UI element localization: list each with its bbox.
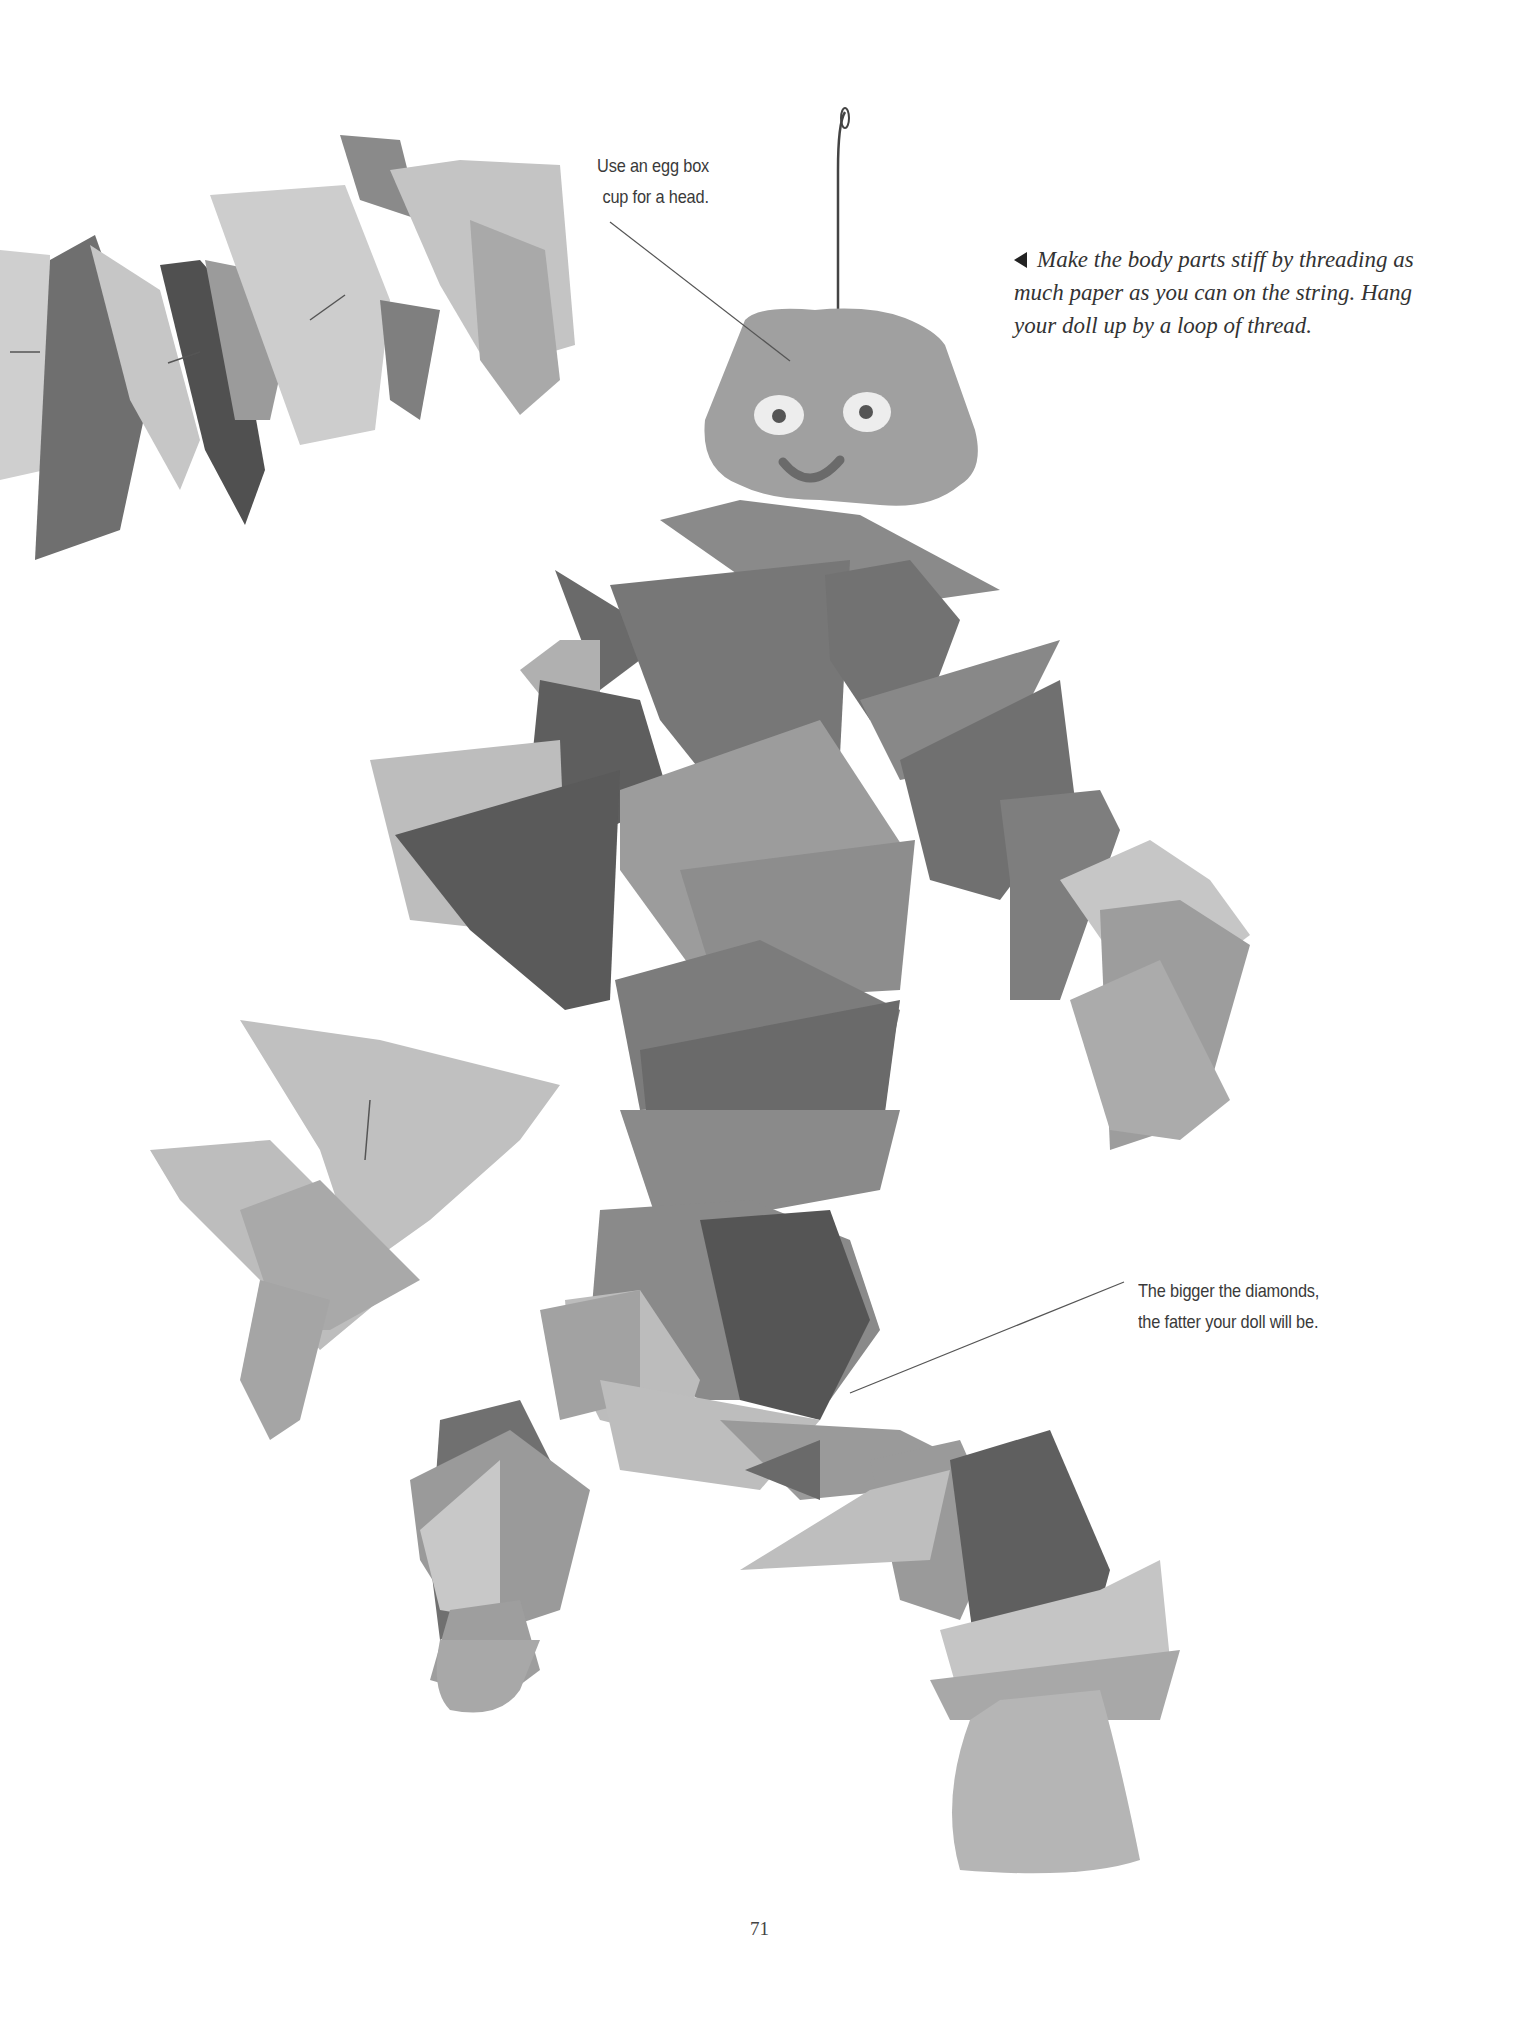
leader-line-head [610,222,790,361]
caption-text: Make the body parts stiff by threading a… [1037,247,1414,272]
caption-egg-box-head: Use an egg box cup for a head. [597,150,709,212]
caption-line-3: your doll up by a loop of thread. [1014,309,1474,342]
arrow-left-icon [1014,252,1027,268]
page-number: 71 [750,1918,769,1940]
leader-line-diamonds [850,1282,1124,1393]
hanging-thread [838,112,845,322]
caption-instruction: Make the body parts stiff by threading a… [1014,243,1474,342]
caption-line-1: Make the body parts stiff by threading a… [1014,243,1474,276]
left-arm [150,1020,560,1440]
right-arm [1000,790,1250,1150]
caption-line: Use an egg box [597,150,709,181]
caption-line: cup for a head. [597,181,709,212]
caption-bigger-diamonds: The bigger the diamonds, the fatter your… [1138,1275,1319,1337]
paper-chain-illustration [0,135,575,560]
caption-line: The bigger the diamonds, [1138,1275,1319,1306]
egg-cup-head [704,309,977,506]
caption-line: the fatter your doll will be. [1138,1306,1319,1337]
caption-line-2: much paper as you can on the string. Han… [1014,276,1474,309]
left-leg [410,1400,590,1713]
book-page: Use an egg box cup for a head. Make the … [0,0,1513,2022]
